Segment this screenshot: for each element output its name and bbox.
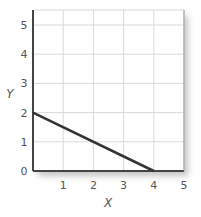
y-tick-label: 0 [21,165,28,178]
x-tick-labels: 12345 [60,179,188,192]
y-axis-label: Y [6,87,15,101]
y-tick-label: 1 [21,136,28,149]
x-axis-label: X [103,196,113,210]
y-tick-label: 4 [21,48,28,61]
x-tick-label: 4 [150,179,157,192]
plot-area [33,10,184,171]
y-tick-label: 3 [21,77,28,90]
x-tick-label: 2 [90,179,97,192]
x-tick-label: 3 [120,179,127,192]
y-tick-labels: 012345 [21,19,28,178]
y-tick-label: 2 [21,107,28,120]
x-tick-label: 1 [60,179,67,192]
y-tick-label: 5 [21,19,28,32]
chart: 12345 012345 X Y [0,0,201,217]
x-tick-label: 5 [181,179,188,192]
